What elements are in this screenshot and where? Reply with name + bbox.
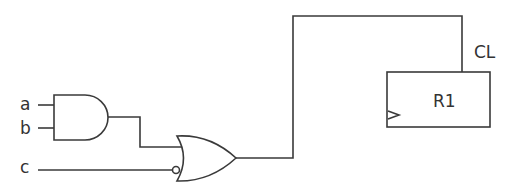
register-label: R1: [433, 91, 456, 111]
inverter-bubble-icon: [173, 167, 180, 174]
circuit-diagram: a b c CL R1: [0, 0, 524, 193]
input-label-b: b: [20, 118, 31, 138]
and-gate: [54, 95, 108, 140]
or-gate: [177, 136, 236, 181]
input-label-c: c: [20, 157, 29, 177]
wire-and-to-or: [108, 117, 182, 147]
input-label-a: a: [20, 94, 30, 114]
clock-label: CL: [474, 42, 496, 62]
